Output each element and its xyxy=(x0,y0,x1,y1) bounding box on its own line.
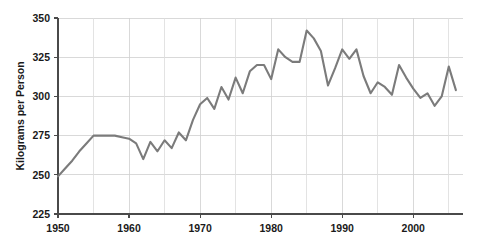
y-tick-label: 275 xyxy=(32,129,50,141)
x-tick-label: 2000 xyxy=(402,222,426,234)
grid-vertical xyxy=(94,18,449,214)
chart-container: 225250275300325350 195019601970198019902… xyxy=(0,0,480,249)
y-tick-label: 350 xyxy=(32,12,50,24)
y-tick-labels: 225250275300325350 xyxy=(32,12,50,220)
x-tick-label: 1950 xyxy=(46,222,70,234)
x-tick-label: 1980 xyxy=(259,222,283,234)
x-tick-labels: 195019601970198019902000 xyxy=(46,222,425,234)
y-tick-label: 225 xyxy=(32,208,50,220)
y-tick-label: 325 xyxy=(32,51,50,63)
y-tick-label: 300 xyxy=(32,90,50,102)
line-chart: 225250275300325350 195019601970198019902… xyxy=(0,0,480,249)
grid-horizontal xyxy=(58,18,463,175)
x-tick-label: 1960 xyxy=(117,222,141,234)
x-tick-label: 1990 xyxy=(331,222,355,234)
x-tick-label: 1970 xyxy=(188,222,212,234)
y-axis-title: Kilograms per Person xyxy=(14,61,26,170)
data-series-line xyxy=(58,31,456,177)
y-tick-label: 250 xyxy=(32,169,50,181)
